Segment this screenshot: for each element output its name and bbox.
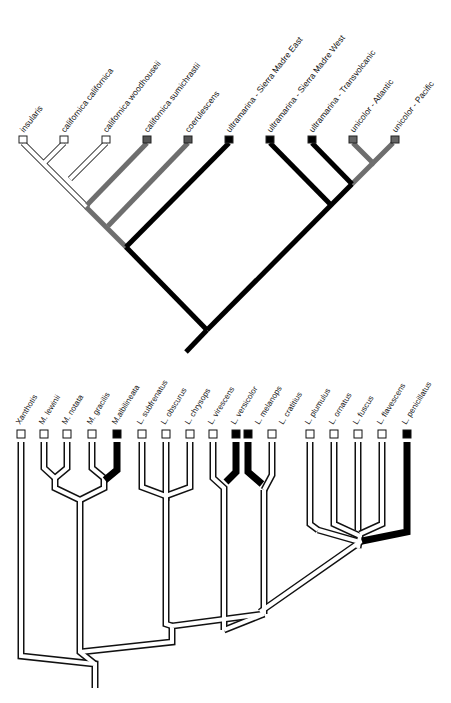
top-tip-boxes: [19, 136, 399, 143]
top-tree: insularis californica californica califo…: [18, 32, 437, 352]
taxon-label: L. fuscus: [351, 394, 376, 426]
bottom-branches-fill: [21, 442, 382, 688]
taxon-label: L. cratitius: [277, 390, 304, 426]
top-labels: insularis californica californica califo…: [18, 32, 437, 134]
taxon-label: unicolor - Pacific: [390, 78, 437, 134]
taxon-label: ultramarina - Sierra Madre East: [224, 34, 305, 134]
taxon-label: unicolor - Atlantic: [348, 76, 396, 134]
taxon-label: M. gracilis: [85, 391, 112, 426]
bottom-labels: Xanthotis M. lewinii M. notata M. gracil…: [14, 378, 433, 426]
taxon-label: M. notata: [60, 393, 86, 427]
taxon-label: coerulescens: [183, 89, 222, 135]
bottom-tree: Xanthotis M. lewinii M. notata M. gracil…: [14, 378, 433, 688]
taxon-label: L. ornatus: [327, 391, 353, 426]
phylogeny-figure: insularis californica californica califo…: [0, 0, 451, 703]
taxon-label: insularis: [18, 103, 45, 134]
taxon-label: M. lewinii: [37, 393, 62, 426]
taxon-label: ultramarina - Sierra Madre West: [265, 32, 348, 134]
taxon-label: Xanthotis: [14, 393, 39, 426]
top-gray-branches: [86, 143, 393, 248]
bottom-tip-boxes: [17, 430, 411, 438]
